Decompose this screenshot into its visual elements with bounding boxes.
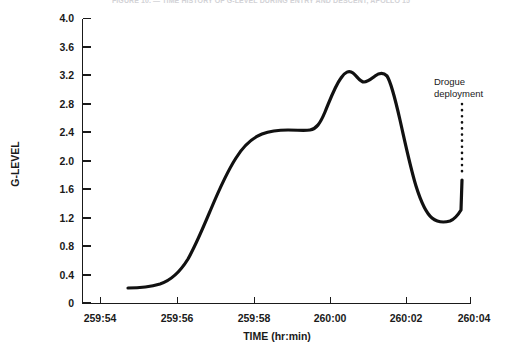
- y-tick-label-3.6: 3.6: [59, 41, 74, 53]
- y-tick-label-2.4: 2.4: [59, 126, 74, 138]
- y-tick-label-3.2: 3.2: [59, 69, 74, 81]
- y-tick-label-0.4: 0.4: [59, 269, 74, 281]
- x-tick-label-259-58: 259:58: [238, 312, 271, 324]
- x-tick-label-260-02: 260:02: [390, 312, 423, 324]
- x-tick-label-260-04: 260:04: [458, 312, 491, 324]
- y-tick-label-2.8: 2.8: [59, 98, 74, 110]
- g-level-curve: [128, 72, 462, 288]
- x-tick-marks: [101, 297, 407, 304]
- x-tick-label-260-00: 260:00: [314, 312, 347, 324]
- y-tick-label-1.2: 1.2: [59, 212, 74, 224]
- drogue-deployment-label-line2: deployment: [434, 88, 483, 99]
- chart-plot-area: 4.0 3.6 3.2 2.8 2.4 2.0 1.6 1.2 0.8 0.4 …: [0, 0, 522, 361]
- y-tick-label-0: 0: [68, 297, 74, 309]
- x-axis-title: TIME (hr:min): [243, 330, 311, 342]
- y-tick-marks: [83, 47, 91, 303]
- x-tick-label-259-56: 259:56: [161, 312, 194, 324]
- x-tick-labels: 259:54 259:56 259:58 260:00 260:02 260:0…: [84, 312, 491, 324]
- x-tick-label-259-54: 259:54: [84, 312, 117, 324]
- y-tick-labels: 4.0 3.6 3.2 2.8 2.4 2.0 1.6 1.2 0.8 0.4 …: [59, 12, 74, 309]
- y-tick-label-1.6: 1.6: [59, 183, 74, 195]
- figure-container: FIGURE 10. — TIME HISTORY OF G-LEVEL DUR…: [0, 0, 522, 361]
- y-tick-label-2.0: 2.0: [59, 155, 74, 167]
- y-tick-label-0.8: 0.8: [59, 240, 74, 252]
- drogue-deployment-annotation: Drogue deployment: [434, 76, 483, 172]
- axis-lines: [83, 19, 471, 304]
- y-tick-label-4.0: 4.0: [59, 12, 74, 24]
- y-axis-title: G-LEVEL: [9, 141, 21, 187]
- drogue-deployment-label-line1: Drogue: [434, 76, 465, 87]
